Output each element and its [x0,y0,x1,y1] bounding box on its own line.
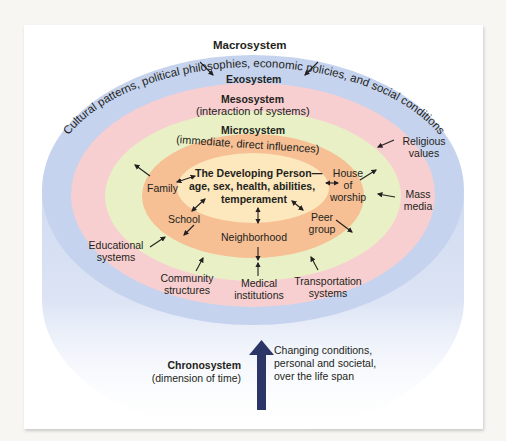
neighborhood-label: Neighborhood [221,231,287,243]
chronosystem-label: Chronosystem [165,359,241,371]
medical-institutions-label: Medical institutions [229,277,289,301]
transportation-systems-label: Transportation systems [290,275,366,299]
mass-media-label: Mass media [400,188,436,212]
center-line3: temperament [221,193,287,205]
peer-group-label: Peer group [304,211,340,235]
center-line2: age, sex, health, abilities, [189,180,315,192]
chronosystem-description-line2: personal and societal, [274,357,376,369]
mesosystem-label: Mesosystem [221,93,284,105]
house-of-worship-label: House of worship [327,167,369,203]
family-label: Family [147,182,178,194]
exosystem-label: Exosystem [226,73,281,85]
religious-values-label: Religious values [399,135,449,159]
school-label: School [168,213,200,225]
chronosystem-description-line3: over the life span [274,370,354,382]
mesosystem-sublabel: (interaction of systems) [196,105,310,117]
educational-systems-label: Educational systems [86,239,146,263]
macrosystem-label: Macrosystem [213,39,287,51]
ecological-systems-diagram: Cultural patterns, political philosophie… [0,0,506,441]
chronosystem-sublabel: (dimension of time) [138,372,241,384]
microsystem-label: Microsystem [221,124,285,136]
center-line1: The Developing Person— [195,167,322,179]
chronosystem-description-line1: Changing conditions, [274,344,372,356]
community-structures-label: Community structures [155,272,219,296]
